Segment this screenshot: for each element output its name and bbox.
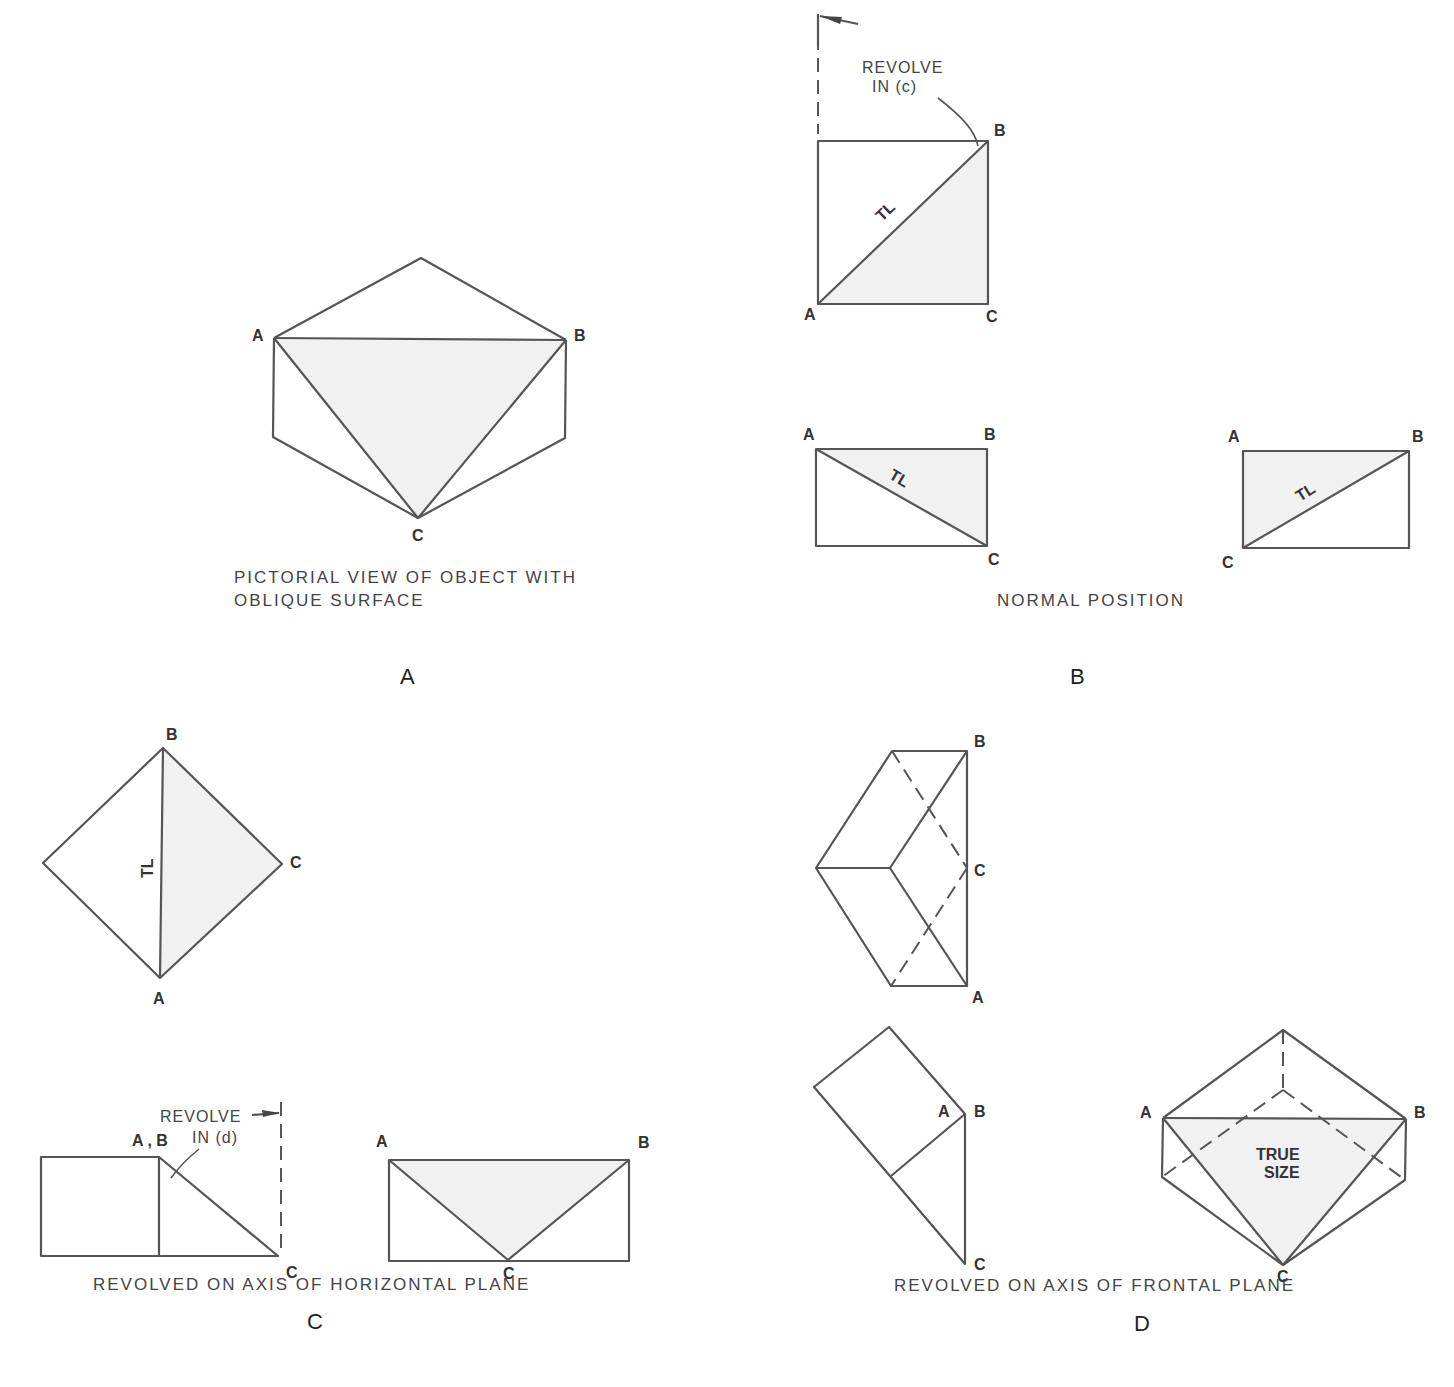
revolve-note-line2: IN (c) (872, 78, 917, 95)
point-a-label: A (1140, 1104, 1152, 1121)
panel-b: REVOLVE IN (c) TL B A C TL A B C TL A B … (803, 14, 1424, 689)
panel-b-letter: B (1070, 664, 1085, 689)
revolution-diagram: A B C PICTORIAL VIEW OF OBJECT WITH OBLI… (0, 0, 1454, 1387)
point-c-label: C (290, 854, 302, 871)
point-c-label: C (974, 862, 986, 879)
true-size-line2: SIZE (1264, 1164, 1300, 1181)
revolve-note-line2: IN (d) (192, 1129, 238, 1146)
point-b-label: B (638, 1134, 650, 1151)
panel-d-caption: REVOLVED ON AXIS OF FRONTAL PLANE (894, 1276, 1295, 1295)
point-a-label: A (252, 327, 264, 344)
top-edges (274, 258, 566, 340)
panel-a-caption-line2: OBLIQUE SURFACE (234, 591, 425, 610)
point-b-label: B (1412, 428, 1424, 445)
point-c-label: C (988, 551, 1000, 568)
point-c-label: C (412, 527, 424, 544)
point-a-label: A (376, 1133, 388, 1150)
revolve-note-line1: REVOLVE (160, 1108, 241, 1125)
panel-a: A B C PICTORIAL VIEW OF OBJECT WITH OBLI… (234, 258, 586, 689)
point-a-label: A (938, 1103, 950, 1120)
tl-label: TL (872, 198, 898, 224)
oblique-surface-fill (274, 338, 566, 518)
panel-c-letter: C (307, 1309, 323, 1334)
point-b-label: B (574, 327, 586, 344)
point-a-label: A (803, 426, 815, 443)
point-a-label: A (972, 989, 984, 1006)
panel-a-letter: A (400, 664, 415, 689)
revolve-note-line1: REVOLVE (862, 59, 943, 76)
point-b-label: B (166, 726, 178, 743)
panel-d: B C A A B C TRUE SIZE A B C REVOLVED ON … (814, 733, 1426, 1336)
point-b-label: B (984, 426, 996, 443)
point-c-label: C (974, 1256, 986, 1273)
point-c-label: C (1222, 554, 1234, 571)
point-b-label: B (994, 122, 1006, 139)
panel-c: TL B C A REVOLVE IN (d) A , B C A B C RE… (41, 726, 650, 1334)
tl-label: TL (139, 858, 156, 878)
panel-a-caption-line1: PICTORIAL VIEW OF OBJECT WITH (234, 568, 577, 587)
point-ab-label: A , B (132, 1132, 168, 1149)
panel-b-caption: NORMAL POSITION (997, 591, 1185, 610)
point-a-label: A (153, 990, 165, 1007)
point-b-label: B (1414, 1104, 1426, 1121)
panel-c-caption: REVOLVED ON AXIS OF HORIZONTAL PLANE (93, 1275, 530, 1294)
point-b-label: B (974, 1103, 986, 1120)
point-a-label: A (804, 306, 816, 323)
panel-d-letter: D (1134, 1311, 1150, 1336)
true-size-line1: TRUE (1256, 1146, 1300, 1163)
point-b-label: B (974, 733, 986, 750)
point-a-label: A (1228, 428, 1240, 445)
point-c-label: C (986, 308, 998, 325)
